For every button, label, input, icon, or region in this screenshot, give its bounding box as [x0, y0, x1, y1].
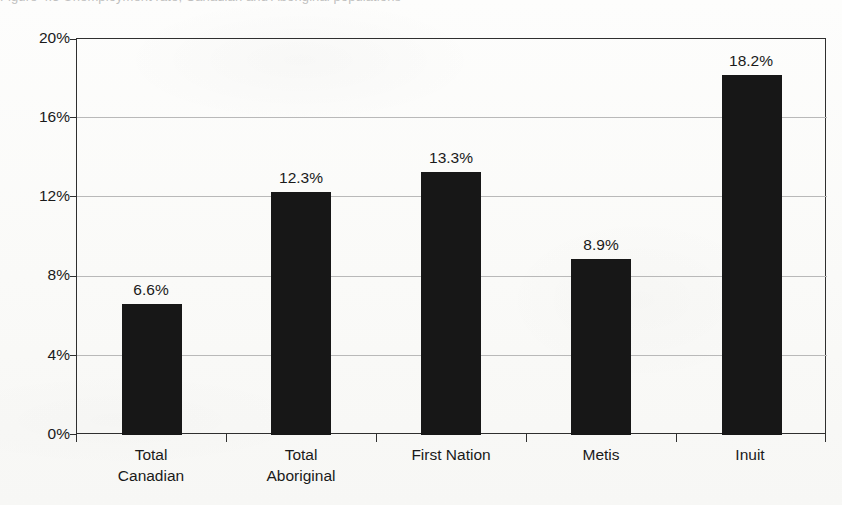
x-tick-0	[76, 434, 77, 442]
bar-value-first-nation: 13.3%	[391, 149, 511, 167]
y-tick-4	[70, 355, 77, 356]
x-category-line-1: Total	[226, 444, 376, 465]
y-tick-8	[70, 276, 77, 277]
x-category-line-1: Total	[76, 444, 226, 465]
x-tick-4	[676, 434, 677, 442]
x-category-first-nation: First Nation	[376, 444, 526, 465]
y-axis-label-8: 8%	[0, 266, 70, 284]
x-category-inuit: Inuit	[675, 444, 825, 465]
y-axis-label-16: 16%	[0, 108, 70, 126]
bar-inuit[interactable]	[722, 75, 782, 435]
x-category-line-1: Metis	[526, 444, 676, 465]
bar-value-total-aboriginal: 12.3%	[241, 169, 361, 187]
bar-total-canadian[interactable]	[122, 304, 182, 435]
y-axis-label-4: 4%	[0, 346, 70, 364]
x-category-line-1: Inuit	[675, 444, 825, 465]
x-category-total-canadian: Total Canadian	[76, 444, 226, 486]
gridline-16	[77, 117, 827, 118]
bar-metis[interactable]	[571, 259, 631, 435]
bar-chart: 20% 16% 12% 8% 4% 0% 6.6% 12.3% 13.3% 8.…	[0, 0, 842, 505]
x-category-line-2: Aboriginal	[226, 465, 376, 486]
x-category-metis: Metis	[526, 444, 676, 465]
x-tick-3	[526, 434, 527, 442]
x-tick-5	[825, 434, 826, 442]
plot-area	[76, 38, 826, 434]
x-category-line-2: Canadian	[76, 465, 226, 486]
bar-value-metis: 8.9%	[541, 236, 661, 254]
bar-total-aboriginal[interactable]	[271, 192, 331, 435]
x-tick-2	[376, 434, 377, 442]
y-axis-label-12: 12%	[0, 187, 70, 205]
x-category-total-aboriginal: Total Aboriginal	[226, 444, 376, 486]
y-tick-16	[70, 117, 77, 118]
y-tick-20	[70, 39, 77, 40]
bar-value-inuit: 18.2%	[691, 52, 811, 70]
y-axis-label-20: 20%	[0, 29, 70, 47]
x-category-line-1: First Nation	[376, 444, 526, 465]
y-axis-label-0: 0%	[0, 425, 70, 443]
bar-first-nation[interactable]	[421, 172, 481, 435]
x-tick-1	[226, 434, 227, 442]
bar-value-total-canadian: 6.6%	[91, 281, 211, 299]
y-tick-12	[70, 196, 77, 197]
